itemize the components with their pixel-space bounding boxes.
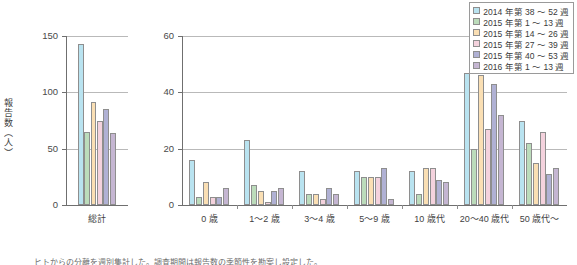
x-axis-tick-label: 3～4 歳 — [292, 212, 347, 225]
bar — [84, 132, 90, 205]
x-axis-tick-label: 20～40 歳代 — [457, 212, 512, 225]
bar — [223, 188, 229, 205]
bar — [326, 188, 332, 205]
x-axis-tick-label: 1～2 歳 — [237, 212, 292, 225]
bar — [271, 191, 277, 205]
legend-swatch-icon — [473, 7, 480, 14]
bar — [210, 197, 216, 205]
bar — [491, 84, 497, 205]
bar — [546, 174, 552, 205]
gridline — [182, 149, 567, 150]
legend-swatch-icon — [473, 51, 480, 58]
bar — [519, 121, 525, 206]
bar — [375, 177, 381, 205]
legend-swatch-icon — [473, 29, 480, 36]
legend-swatch-icon — [473, 62, 480, 69]
bar — [103, 109, 109, 205]
bar — [533, 163, 539, 205]
bar — [265, 202, 271, 205]
bar — [430, 168, 436, 205]
x-axis-tick — [347, 205, 348, 209]
x-axis-tick — [512, 205, 513, 209]
figure-caption: ヒトからの分離を週別集計した。調査期間は報告数の季節性を勘案し設定した。 — [34, 256, 573, 265]
bar — [485, 129, 491, 205]
bar — [189, 160, 195, 205]
bar — [196, 197, 202, 205]
y-axis-tick-label: 40 — [144, 86, 174, 97]
x-axis-tick-label: 0 歳 — [182, 212, 237, 225]
bar — [540, 132, 546, 205]
bar — [78, 44, 84, 205]
bar — [278, 188, 284, 205]
bar — [478, 75, 484, 205]
y-axis-tick-label: 150 — [28, 30, 58, 41]
bar — [464, 73, 470, 205]
legend-swatch-icon — [473, 40, 480, 47]
legend-item: 2015 年第 1 ～ 13 週 — [473, 16, 569, 27]
x-axis-tick-label: 5～9 歳 — [347, 212, 402, 225]
bar — [361, 177, 367, 205]
bar — [313, 194, 319, 205]
y-axis-tick-label: 0 — [28, 199, 58, 210]
legend-item: 2014 年第 38 ～ 52 週 — [473, 5, 569, 16]
x-axis-tick-label: 総計 — [66, 212, 128, 225]
legend-item: 2015 年第 27 ～ 39 週 — [473, 38, 569, 49]
y-axis-tick-label: 60 — [144, 30, 174, 41]
y-axis-tick-label: 20 — [144, 143, 174, 154]
bar — [526, 143, 532, 205]
bar — [110, 133, 116, 205]
bar — [416, 194, 422, 205]
gridline — [182, 92, 567, 93]
bar — [443, 182, 449, 205]
bar — [423, 168, 429, 205]
x-axis-tick — [237, 205, 238, 209]
legend-item: 2015 年第 14 ～ 26 週 — [473, 27, 569, 38]
y-axis-line — [182, 36, 183, 205]
bar — [251, 185, 257, 205]
legend-item-label: 2016 年第 1 ～ 13 週 — [483, 60, 564, 72]
legend-item: 2016 年第 1 ～ 13 週 — [473, 60, 569, 71]
y-axis-tick-label: 0 — [144, 199, 174, 210]
bar — [553, 168, 559, 205]
bar — [320, 199, 326, 205]
bar — [244, 140, 250, 205]
bar — [203, 182, 209, 205]
bar — [333, 194, 339, 205]
legend-item: 2015 年第 40 ～ 53 週 — [473, 49, 569, 60]
x-axis-line — [66, 205, 128, 206]
bar — [299, 171, 305, 205]
legend: 2014 年第 38 ～ 52 週2015 年第 1 ～ 13 週2015 年第… — [469, 2, 574, 74]
bar — [409, 171, 415, 205]
bar — [436, 180, 442, 205]
y-axis-tick-label: 50 — [28, 143, 58, 154]
x-axis-line — [182, 205, 567, 206]
x-axis-tick-label: 50 歳代～ — [512, 212, 567, 225]
y-axis-tick-label: 100 — [28, 86, 58, 97]
bar — [258, 191, 264, 205]
x-axis-tick — [457, 205, 458, 209]
bar — [216, 197, 222, 205]
bar — [388, 199, 394, 205]
bar — [354, 171, 360, 205]
legend-swatch-icon — [473, 18, 480, 25]
y-axis-line — [66, 36, 67, 205]
bar — [91, 102, 97, 205]
x-axis-tick — [292, 205, 293, 209]
bar — [97, 121, 103, 206]
x-axis-tick — [402, 205, 403, 209]
bar — [381, 168, 387, 205]
gridline — [66, 92, 128, 93]
chart-total: 050100150総計 — [36, 32, 128, 227]
y-axis-label: 報告数（人） — [3, 98, 13, 158]
x-axis-tick-label: 10 歳代 — [402, 212, 457, 225]
bar — [368, 177, 374, 205]
bar — [498, 115, 504, 205]
gridline — [66, 36, 128, 37]
bar — [306, 194, 312, 205]
bar — [471, 149, 477, 205]
